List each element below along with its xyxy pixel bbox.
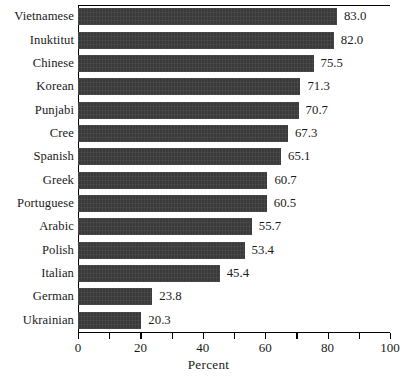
value-label: 67.3 xyxy=(295,125,317,142)
category-label: Vietnamese xyxy=(0,8,74,25)
bar-row: Cree67.3 xyxy=(78,125,288,142)
category-label: Portuguese xyxy=(0,195,74,212)
bar-row: German23.8 xyxy=(78,288,152,305)
x-tick xyxy=(109,333,110,339)
value-label: 83.0 xyxy=(344,8,366,25)
x-tick xyxy=(359,333,360,339)
bar-polish xyxy=(78,242,245,259)
x-tick-label: 60 xyxy=(245,340,285,356)
value-label: 45.4 xyxy=(227,265,249,282)
bar-row: Vietnamese83.0 xyxy=(78,8,337,25)
bar-italian xyxy=(78,265,220,282)
category-label: German xyxy=(0,288,74,305)
x-tick xyxy=(265,333,266,339)
value-label: 23.8 xyxy=(159,288,181,305)
bar-greek xyxy=(78,172,267,189)
bar-vietnamese xyxy=(78,8,337,25)
x-tick xyxy=(203,333,204,339)
x-tick-label: 100 xyxy=(370,340,410,356)
bar-chart: Vietnamese83.0Inuktitut82.0Chinese75.5Ko… xyxy=(0,0,417,378)
bar-punjabi xyxy=(78,102,299,119)
x-tick xyxy=(140,333,141,339)
category-label: Polish xyxy=(0,242,74,259)
x-tick xyxy=(390,333,391,339)
bar-chinese xyxy=(78,55,314,72)
category-label: Italian xyxy=(0,265,74,282)
value-label: 82.0 xyxy=(341,32,363,49)
value-label: 55.7 xyxy=(259,218,281,235)
category-label: Greek xyxy=(0,172,74,189)
bar-spanish xyxy=(78,148,281,165)
value-label: 20.3 xyxy=(148,312,170,329)
x-tick-label: 20 xyxy=(120,340,160,356)
bar-row: Korean71.3 xyxy=(78,78,300,95)
category-label: Chinese xyxy=(0,55,74,72)
bar-row: Greek60.7 xyxy=(78,172,267,189)
bar-cree xyxy=(78,125,288,142)
value-label: 71.3 xyxy=(307,78,329,95)
category-label: Punjabi xyxy=(0,102,74,119)
x-tick xyxy=(172,333,173,339)
bar-ukrainian xyxy=(78,312,141,329)
category-label: Spanish xyxy=(0,148,74,165)
bar-row: Chinese75.5 xyxy=(78,55,314,72)
value-label: 65.1 xyxy=(288,148,310,165)
value-label: 60.5 xyxy=(274,195,296,212)
bar-arabic xyxy=(78,218,252,235)
bar-korean xyxy=(78,78,300,95)
bar-row: Spanish65.1 xyxy=(78,148,281,165)
bar-row: Portuguese60.5 xyxy=(78,195,267,212)
x-tick xyxy=(328,333,329,339)
bar-row: Punjabi70.7 xyxy=(78,102,299,119)
x-tick xyxy=(296,333,297,339)
x-tick-label: 80 xyxy=(308,340,348,356)
x-tick-label: 0 xyxy=(58,340,98,356)
category-label: Arabic xyxy=(0,218,74,235)
value-label: 53.4 xyxy=(252,242,274,259)
x-tick xyxy=(78,333,79,339)
value-label: 60.7 xyxy=(274,172,296,189)
category-label: Korean xyxy=(0,78,74,95)
x-tick xyxy=(234,333,235,339)
bar-portuguese xyxy=(78,195,267,212)
bar-row: Arabic55.7 xyxy=(78,218,252,235)
category-label: Inuktitut xyxy=(0,32,74,49)
x-tick-label: 40 xyxy=(183,340,223,356)
bar-row: Italian45.4 xyxy=(78,265,220,282)
value-label: 70.7 xyxy=(306,102,328,119)
category-label: Ukrainian xyxy=(0,312,74,329)
x-axis-title: Percent xyxy=(0,357,417,373)
bar-row: Polish53.4 xyxy=(78,242,245,259)
value-label: 75.5 xyxy=(321,55,343,72)
category-label: Cree xyxy=(0,125,74,142)
bar-row: Ukrainian20.3 xyxy=(78,312,141,329)
bar-german xyxy=(78,288,152,305)
bar-row: Inuktitut82.0 xyxy=(78,32,334,49)
bar-inuktitut xyxy=(78,32,334,49)
